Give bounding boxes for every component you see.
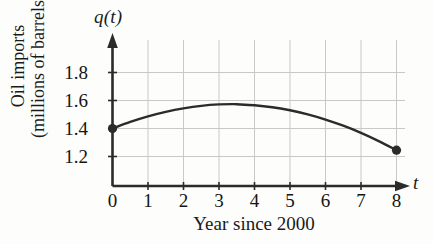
y-axis-line (107, 33, 118, 186)
x-tick-label-1: 1 (136, 191, 160, 210)
vertical-gridlines (113, 40, 397, 186)
x-tick-label-4: 4 (243, 191, 267, 210)
x-tick-label-5: 5 (278, 191, 302, 210)
x-tick-label-8: 8 (385, 191, 409, 210)
y-axis-title-line-1: Oil imports (8, 25, 28, 108)
x-axis-title: Year since 2000 (112, 213, 396, 235)
data-point-marker-start (108, 124, 117, 133)
x-axis-symbol-label: t (413, 172, 418, 194)
x-tick-label-7: 7 (349, 191, 373, 210)
y-axis-title-line-2: (millions of barrels) (28, 0, 48, 138)
y-axis-symbol-label: q(t) (94, 6, 122, 28)
oil-imports-chart-figure: 1.8 1.6 1.4 1.2 0 1 2 3 4 5 6 7 8 Oil im… (0, 0, 433, 244)
x-tick-label-2: 2 (172, 191, 196, 210)
y-axis-title: Oil imports (millions of barrels) (0, 0, 56, 152)
x-tick-label-6: 6 (314, 191, 338, 210)
y-axis-arrowhead (107, 33, 118, 48)
x-tick-label-3: 3 (207, 191, 231, 210)
data-point-marker-end (392, 146, 401, 155)
x-tick-label-0: 0 (101, 191, 125, 210)
